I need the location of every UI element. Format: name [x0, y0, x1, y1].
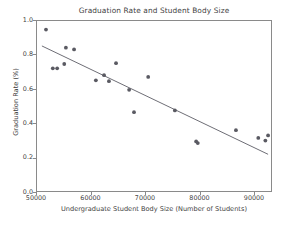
x-tick-label: 80000 [180, 195, 220, 201]
x-tick-mark [200, 192, 201, 195]
x-tick-mark [36, 192, 37, 195]
chart-figure: Graduation Rate and Student Body Size 0.… [0, 0, 287, 225]
y-axis-label: Graduation Rate (%) [12, 42, 20, 162]
x-tick-label: 60000 [71, 195, 111, 201]
x-axis-label: Undergraduate Student Body Size (Number … [36, 205, 272, 213]
x-tick-label: 90000 [234, 195, 274, 201]
x-tick-label: 70000 [125, 195, 165, 201]
x-tick-mark [91, 192, 92, 195]
x-axis-ticks: 5000060000700008000090000 [0, 0, 287, 225]
x-tick-mark [145, 192, 146, 195]
x-tick-mark [254, 192, 255, 195]
x-tick-label: 50000 [16, 195, 56, 201]
